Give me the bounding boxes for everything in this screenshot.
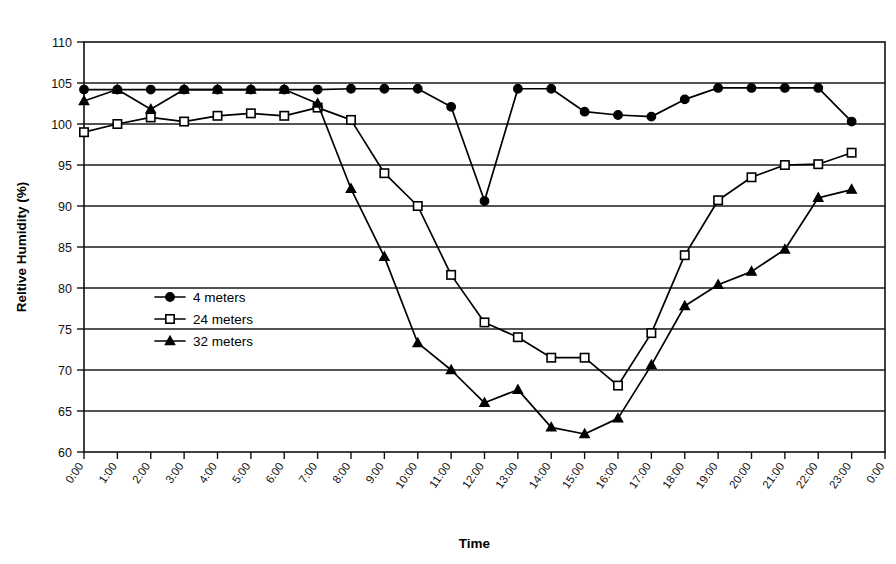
x-tick-label-14: 14:00	[527, 460, 553, 490]
y-tick-label-85: 85	[58, 241, 72, 255]
series-1-pt-20-square-marker	[747, 173, 755, 181]
x-axis-title: Time	[459, 536, 491, 551]
chart-legend: 4 meters24 meters32 meters	[155, 290, 253, 349]
x-tick-label-6: 6:00	[263, 460, 286, 485]
series-1-pt-6-square-marker	[280, 112, 288, 120]
y-tick-label-65: 65	[58, 405, 72, 419]
y-axis-ticks: 6065707580859095100105110	[51, 36, 84, 460]
series-2-pt-18-triangle-marker	[680, 301, 690, 310]
y-tick-label-75: 75	[58, 323, 72, 337]
x-tick-label-7: 7:00	[297, 460, 320, 485]
series-line-0	[84, 88, 852, 201]
x-tick-label-23: 23:00	[827, 460, 853, 490]
y-tick-label-95: 95	[58, 159, 72, 173]
x-tick-label-13: 13:00	[493, 460, 519, 490]
x-tick-label-17: 17:00	[627, 460, 653, 490]
series-2-pt-13-triangle-marker	[513, 385, 523, 394]
series-1-pt-11-square-marker	[447, 271, 455, 279]
series-1-pt-18-square-marker	[681, 251, 689, 259]
legend-item-4-meters[interactable]: 4 meters	[155, 290, 246, 305]
series-1-pt-14-square-marker	[547, 354, 555, 362]
series-2-pt-16-triangle-marker	[613, 413, 623, 422]
legend-item-24-meters[interactable]: 24 meters	[155, 312, 253, 327]
series-1-pt-1-square-marker	[113, 120, 121, 128]
legend-item-32-meters[interactable]: 32 meters	[155, 334, 253, 349]
series-2-pt-2-triangle-marker	[146, 104, 156, 113]
x-tick-label-22: 22:00	[794, 460, 820, 490]
series-0-pt-23-circle-marker	[847, 117, 856, 126]
x-tick-label-10: 10:00	[393, 460, 419, 490]
series-0-pt-20-circle-marker	[747, 84, 756, 93]
x-tick-label-9: 9:00	[363, 460, 386, 485]
series-2-pt-8-triangle-marker	[346, 184, 356, 193]
series-1-pt-19-square-marker	[714, 196, 722, 204]
series-1-pt-16-square-marker	[614, 381, 622, 389]
series-1-pt-13-square-marker	[514, 333, 522, 341]
y-tick-label-110: 110	[52, 36, 72, 50]
series-0-pt-9-circle-marker	[380, 84, 389, 93]
legend-label-2: 32 meters	[193, 334, 253, 349]
legend-0-circle-marker	[166, 293, 175, 302]
legend-label-1: 24 meters	[193, 312, 253, 327]
series-0-pt-14-circle-marker	[547, 84, 556, 93]
series-0-pt-22-circle-marker	[814, 84, 823, 93]
series-0-pt-19-circle-marker	[714, 84, 723, 93]
x-tick-label-21: 21:00	[760, 460, 786, 490]
series-1-pt-4-square-marker	[213, 112, 221, 120]
legend-1-square-marker	[166, 315, 174, 323]
x-tick-label-20: 20:00	[727, 460, 753, 490]
series-line-2	[84, 90, 852, 434]
x-tick-label-19: 19:00	[693, 460, 719, 490]
series-1-pt-8-square-marker	[347, 116, 355, 124]
series-0-pt-10-circle-marker	[413, 84, 422, 93]
y-tick-label-105: 105	[51, 77, 72, 91]
series-1-pt-3-square-marker	[180, 117, 188, 125]
series-1-pt-10-square-marker	[414, 202, 422, 210]
x-tick-label-24: 0:00	[864, 460, 887, 485]
legend-label-0: 4 meters	[193, 290, 246, 305]
gridlines-group	[84, 83, 885, 411]
series-0-pt-21-circle-marker	[781, 84, 790, 93]
series-1-pt-12-square-marker	[480, 318, 488, 326]
series-0-pt-7-circle-marker	[313, 85, 322, 94]
series-0-pt-8-circle-marker	[347, 84, 356, 93]
x-tick-label-2: 2:00	[130, 460, 153, 485]
y-tick-label-60: 60	[58, 446, 72, 460]
series-2-pt-23-triangle-marker	[847, 185, 857, 194]
series-2-pt-17-triangle-marker	[647, 360, 657, 369]
series-0-pt-2-circle-marker	[146, 85, 155, 94]
x-tick-label-11: 11:00	[427, 460, 453, 490]
series-1-pt-5-square-marker	[247, 109, 255, 117]
series-1-pt-15-square-marker	[580, 354, 588, 362]
series-1-pt-0-square-marker	[80, 128, 88, 136]
y-tick-label-100: 100	[51, 118, 72, 132]
series-1-pt-17-square-marker	[647, 329, 655, 337]
series-2-pt-10-triangle-marker	[413, 338, 423, 347]
series-1-pt-21-square-marker	[781, 161, 789, 169]
series-0-pt-15-circle-marker	[580, 107, 589, 116]
data-series-group	[79, 84, 856, 438]
series-0-pt-11-circle-marker	[447, 102, 456, 111]
x-tick-label-16: 16:00	[593, 460, 619, 490]
series-1-pt-9-square-marker	[380, 169, 388, 177]
y-tick-label-90: 90	[58, 200, 72, 214]
series-1-pt-23-square-marker	[847, 149, 855, 157]
x-tick-label-0: 0:00	[63, 460, 86, 485]
series-1-pt-2-square-marker	[147, 113, 155, 121]
y-tick-label-80: 80	[58, 282, 72, 296]
series-0-pt-12-circle-marker	[480, 197, 489, 206]
series-0-pt-16-circle-marker	[614, 111, 623, 120]
series-0-pt-13-circle-marker	[514, 84, 523, 93]
series-2-pt-9-triangle-marker	[380, 252, 390, 261]
x-tick-label-18: 18:00	[660, 460, 686, 490]
y-tick-label-70: 70	[58, 364, 72, 378]
humidity-line-chart: 6065707580859095100105110 0:001:002:003:…	[0, 0, 896, 564]
y-axis-title: Reltive Humidity (%)	[14, 182, 29, 313]
x-tick-label-4: 4:00	[196, 460, 219, 485]
x-tick-label-15: 15:00	[560, 460, 586, 490]
series-0-pt-18-circle-marker	[680, 95, 689, 104]
series-4-meters	[80, 84, 856, 206]
x-tick-label-5: 5:00	[230, 460, 253, 485]
series-0-pt-17-circle-marker	[647, 112, 656, 121]
x-axis-ticks: 0:001:002:003:004:005:006:007:008:009:00…	[63, 452, 887, 491]
